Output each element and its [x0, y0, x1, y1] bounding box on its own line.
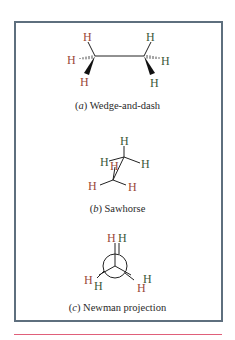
- hashed-bond-right: [147, 55, 159, 59]
- atom-h: H: [143, 272, 152, 286]
- caption-text: Sawhorse: [105, 203, 146, 214]
- atom-h: H: [146, 30, 155, 44]
- atom-h: H: [83, 30, 92, 44]
- hashed-bond-left: [80, 55, 92, 59]
- atom-h: H: [161, 54, 170, 68]
- atom-h: H: [100, 155, 109, 169]
- atom-h: H: [107, 231, 116, 245]
- atom-h: H: [128, 180, 137, 194]
- atom-h: H: [67, 53, 76, 67]
- atom-h: H: [141, 157, 150, 171]
- molecule-drawings: H H H H H H H H H H H H: [0, 0, 235, 340]
- panel-letter: c: [72, 302, 77, 313]
- atom-h: H: [80, 75, 89, 89]
- bottom-rule: [14, 334, 222, 335]
- caption-sawhorse: (b) Sawhorse: [0, 203, 235, 214]
- caption-text: Wedge-and-dash: [90, 100, 160, 111]
- wedge-and-dash-structure: H H H H H H: [67, 30, 170, 90]
- caption-newman-projection: (c) Newman projection: [0, 302, 235, 313]
- atom-h: H: [110, 159, 119, 173]
- atom-h: H: [120, 134, 129, 148]
- atom-h: H: [150, 76, 159, 90]
- caption-text: Newman projection: [83, 302, 166, 313]
- newman-projection-structure: [97, 243, 134, 280]
- atom-h: H: [88, 179, 97, 193]
- caption-wedge-and-dash: (a) Wedge-and-dash: [0, 100, 235, 111]
- panel-letter: a: [79, 100, 84, 111]
- panel-letter: b: [93, 203, 98, 214]
- atom-h: H: [84, 273, 93, 287]
- atom-h: H: [118, 231, 127, 245]
- atom-h: H: [94, 279, 103, 293]
